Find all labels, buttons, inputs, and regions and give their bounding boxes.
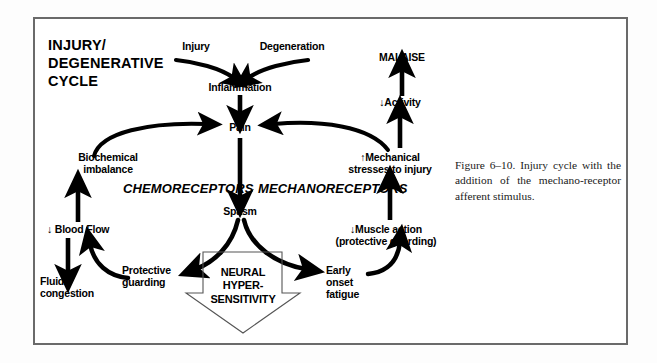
node-early-onset-fatigue: Early onset fatigue [326,265,359,300]
node-muscle-action: ↓Muscle action (protective guarding) [336,224,437,248]
node-neural-hypersensitivity: NEURAL HYPER- SENSITIVITY [210,266,275,306]
node-fluid-congestion: Fluid congestion [40,276,94,300]
figure-caption: Figure 6–10. Injury cycle with the addit… [455,158,621,204]
node-biochemical-imbalance: Biochemical imbalance [78,152,138,176]
figure-title: INJURY/ DEGENERATIVE CYCLE [48,36,164,90]
figure-root: INJURY/ DEGENERATIVE CYCLE Injury Degene… [0,0,657,363]
node-protective-guarding: Protective guarding [122,265,171,289]
group-label-mechanoreceptors: MECHANORECEPTORS [258,182,407,197]
node-pain: Pain [229,122,250,134]
group-label-chemoreceptors: CHEMORECEPTORS [123,182,253,197]
node-degeneration: Degeneration [260,41,325,53]
node-malaise: MALAISE [379,52,425,64]
node-blood-flow: ↓ Blood Flow [47,224,109,236]
node-mechanical-stresses: ↑Mechanical stresses to injury [348,152,431,176]
node-inflammation: Inflammation [209,82,272,94]
node-activity: ↓Activity [379,97,420,109]
node-injury: Injury [182,41,209,53]
node-spasm: Spasm [223,206,256,218]
